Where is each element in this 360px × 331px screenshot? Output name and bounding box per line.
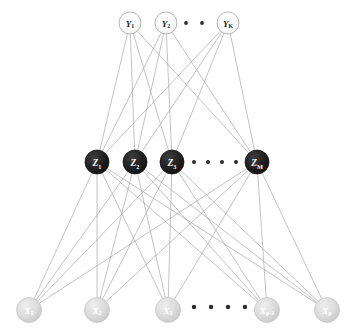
neural-network-diagram: X1X2X3Xp-1Xp Z1Z2Z3ZM Y1Y2YK <box>0 0 360 331</box>
hidden-layer-ellipsis <box>192 160 238 164</box>
node-Y2[interactable]: Y2 <box>155 12 177 34</box>
node-Z3[interactable]: Z3 <box>160 150 184 174</box>
edge-input-X2-to-hidden-Z2 <box>100 174 132 298</box>
edges-input-to-hidden <box>34 168 321 303</box>
edge-hidden-Z1-to-output-Y2 <box>102 33 161 151</box>
edge-input-X3-to-hidden-ZM <box>174 172 250 299</box>
edge-input-Xp1-to-hidden-Z1 <box>106 170 258 302</box>
edge-input-X3-to-hidden-Z3 <box>168 174 171 298</box>
edge-hidden-Z3-to-output-YK <box>176 33 223 151</box>
ellipsis-dot <box>206 160 210 164</box>
node-circle-Y1 <box>119 12 141 34</box>
node-X2[interactable]: X2 <box>85 298 110 323</box>
output-layer-ellipsis <box>184 21 204 25</box>
edge-hidden-Z1-to-output-Y1 <box>100 34 128 151</box>
edge-input-Xp1-to-hidden-Z3 <box>178 172 260 299</box>
edge-input-X1-to-hidden-Z1 <box>34 173 92 299</box>
edge-hidden-Z3-to-output-Y2 <box>166 34 171 150</box>
edge-input-Xp-to-hidden-Z3 <box>181 170 318 301</box>
hidden-layer-nodes: Z1Z2Z3ZM <box>85 150 269 174</box>
edge-input-Xp-to-hidden-ZM <box>262 173 322 299</box>
node-circle-Z2 <box>123 150 147 174</box>
edge-hidden-ZM-to-output-Y2 <box>172 32 250 152</box>
node-Y1[interactable]: Y1 <box>119 12 141 34</box>
ellipsis-dot <box>192 305 196 309</box>
node-circle-YK <box>217 12 239 34</box>
node-X1[interactable]: X1 <box>17 298 42 323</box>
node-Xp[interactable]: Xp <box>315 298 340 323</box>
edges-hidden-to-output <box>100 31 255 153</box>
edge-hidden-Z1-to-output-YK <box>105 31 220 153</box>
ellipsis-dot <box>192 160 196 164</box>
node-YK[interactable]: YK <box>217 12 239 34</box>
edge-hidden-Z2-to-output-YK <box>142 32 222 152</box>
edge-input-Xp-to-hidden-Z1 <box>107 168 316 303</box>
edge-hidden-Z2-to-output-Y1 <box>130 34 134 150</box>
edge-input-X3-to-hidden-Z1 <box>102 173 162 299</box>
edge-input-X1-to-hidden-ZM <box>39 169 246 304</box>
edge-hidden-ZM-to-output-YK <box>230 34 254 150</box>
node-circle-Y2 <box>155 12 177 34</box>
ellipsis-dot <box>220 160 224 164</box>
ellipsis-dot <box>243 305 247 309</box>
edge-input-Xp-to-hidden-Z2 <box>145 169 318 302</box>
node-circle-Z1 <box>85 150 109 174</box>
node-circle-Z3 <box>160 150 184 174</box>
edge-input-X1-to-hidden-Z2 <box>36 172 128 300</box>
ellipsis-dot <box>200 21 204 25</box>
input-layer-ellipsis <box>192 305 247 309</box>
network-canvas: X1X2X3Xp-1Xp Z1Z2Z3ZM Y1Y2YK <box>0 0 360 331</box>
ellipsis-dot <box>209 305 213 309</box>
node-circle-ZM <box>245 150 269 174</box>
node-Z2[interactable]: Z2 <box>123 150 147 174</box>
input-layer-nodes: X1X2X3Xp-1Xp <box>17 298 340 323</box>
edge-input-X2-to-hidden-Z3 <box>103 173 167 299</box>
edge-input-Xp1-to-hidden-ZM <box>258 174 266 298</box>
node-circle-Xp <box>315 298 340 323</box>
node-X3[interactable]: X3 <box>156 298 181 323</box>
ellipsis-dot <box>226 305 230 309</box>
edge-hidden-ZM-to-output-Y1 <box>137 31 248 153</box>
node-circle-X3 <box>156 298 181 323</box>
edge-input-Xp1-to-hidden-Z2 <box>143 171 259 301</box>
node-circle-X2 <box>85 298 110 323</box>
node-Z1[interactable]: Z1 <box>85 150 109 174</box>
edge-input-X3-to-hidden-Z2 <box>138 174 166 298</box>
output-layer-nodes: Y1Y2YK <box>119 12 239 34</box>
node-circle-X1 <box>17 298 42 323</box>
node-Xp1[interactable]: Xp-1 <box>255 298 280 323</box>
ellipsis-dot <box>234 160 238 164</box>
edge-input-X1-to-hidden-Z3 <box>38 171 164 301</box>
ellipsis-dot <box>184 21 188 25</box>
node-ZM[interactable]: ZM <box>245 150 269 174</box>
node-circle-Xp1 <box>255 298 280 323</box>
edge-input-X2-to-hidden-ZM <box>106 170 248 301</box>
